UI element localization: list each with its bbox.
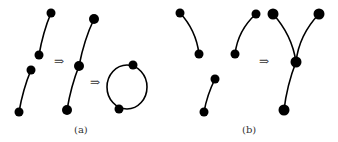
edge (19, 70, 31, 112)
node (211, 75, 220, 84)
path-a1 (35, 9, 56, 60)
node (195, 50, 204, 59)
edge (180, 13, 199, 54)
node (129, 61, 138, 70)
node (27, 66, 36, 75)
node (47, 9, 56, 18)
panel-a: ⇒ ⇒ (a) (15, 9, 148, 136)
node (176, 9, 185, 18)
node (35, 51, 44, 60)
edge (79, 19, 94, 66)
merged-path-a (62, 14, 99, 115)
caption-a: (a) (74, 124, 88, 135)
node (252, 10, 261, 19)
cycle-edge (107, 65, 147, 109)
node (291, 57, 302, 68)
edge (67, 66, 79, 110)
panel-b: ⇒ (b) (176, 9, 325, 136)
caption-b: (b) (242, 124, 256, 135)
diagram-figure: ⇒ ⇒ (a) ⇒ (0, 0, 338, 142)
edge (273, 14, 296, 62)
curve-b-right (231, 10, 261, 59)
implies-arrow-icon: ⇒ (54, 54, 64, 68)
node (74, 61, 84, 71)
merged-tree-b (268, 9, 325, 116)
node (279, 105, 290, 116)
edge (235, 14, 256, 54)
node (115, 105, 124, 114)
node (15, 108, 24, 117)
implies-arrow-icon: ⇒ (259, 54, 269, 68)
node (200, 108, 209, 117)
node (231, 50, 240, 59)
cycle-a (107, 61, 147, 114)
path-b-short (200, 75, 220, 117)
node (62, 105, 72, 115)
path-a2 (15, 66, 36, 117)
edge (296, 14, 319, 62)
node (268, 9, 279, 20)
edge (39, 13, 51, 55)
edge (204, 79, 215, 112)
edge (284, 62, 296, 110)
curve-b-left (176, 9, 204, 59)
node (314, 9, 325, 20)
node (89, 14, 99, 24)
implies-arrow-icon: ⇒ (90, 75, 100, 89)
